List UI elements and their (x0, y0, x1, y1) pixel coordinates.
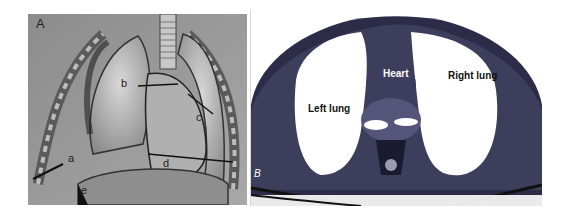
annotation-a: a (68, 152, 74, 164)
ct-image (251, 10, 542, 206)
label-heart: Heart (383, 68, 409, 79)
annotation-c: c (196, 111, 202, 123)
thorax-drawing (28, 14, 247, 205)
annotation-e: e (81, 184, 87, 196)
ct-scan-panel: Heart Left lung Right lung B (250, 10, 542, 206)
annotation-d: d (163, 157, 169, 169)
label-right-lung: Right lung (448, 70, 497, 81)
panel-label-a: A (36, 16, 45, 31)
label-left-lung: Left lung (308, 103, 350, 114)
panel-label-b: B (254, 168, 261, 179)
anatomical-illustration-panel: A a b c d e (28, 14, 247, 205)
annotation-b: b (121, 77, 127, 89)
